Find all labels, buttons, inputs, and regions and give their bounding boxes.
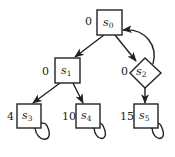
edge-s1-s4: [73, 83, 83, 103]
node-s2: s2 0: [121, 58, 161, 88]
edge-s1-s3: [33, 83, 60, 103]
node-s0: s0 0: [85, 10, 122, 35]
game-graph-diagram: s0 0 s1 0 s2 0 s3 4 s4 10 s5 15: [0, 0, 175, 157]
edge-s0-s1: [75, 35, 104, 57]
value-s2: 0: [121, 65, 128, 78]
edge-s2-s0: [123, 30, 154, 64]
node-s4: s4 10: [62, 104, 100, 128]
node-s3: s3 4: [7, 104, 41, 128]
edge-s0-s2: [115, 35, 136, 61]
node-s1: s1 0: [42, 58, 80, 83]
value-s3: 4: [7, 110, 14, 123]
value-s4: 10: [62, 110, 76, 123]
value-s0: 0: [85, 15, 92, 28]
value-s5: 15: [120, 110, 134, 123]
value-s1: 0: [42, 65, 49, 78]
node-s5: s5 15: [120, 104, 158, 128]
